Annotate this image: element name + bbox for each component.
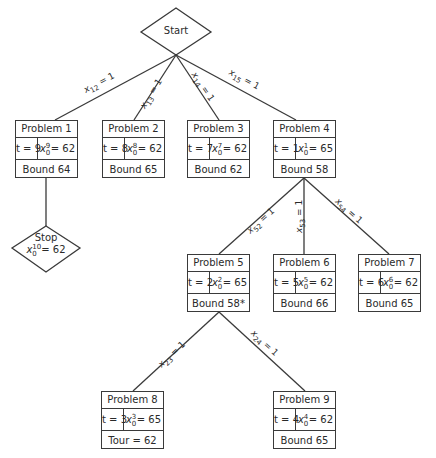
problem-9-node: Problem 9 t = 4x40= 62 Bound 65 xyxy=(273,391,336,449)
problem-t-value: t = 3 xyxy=(102,409,124,430)
problem-1-node: Problem 1 t = 9x90= 62 Bound 64 xyxy=(15,120,78,178)
problem-t-value: t = 7 xyxy=(188,138,210,159)
tree-edges xyxy=(0,0,436,458)
problem-bound: Bound 66 xyxy=(274,294,335,313)
start-label: Start xyxy=(146,25,206,36)
problem-title: Problem 4 xyxy=(274,121,335,138)
problem-3-node: Problem 3 t = 7x70= 62 Bound 62 xyxy=(187,120,250,178)
problem-bound: Bound 64 xyxy=(16,160,77,179)
problem-x-value: x30= 65 xyxy=(124,409,163,430)
problem-title: Problem 8 xyxy=(102,392,163,409)
problem-x-value: x50= 62 xyxy=(296,272,335,293)
problem-x-value: x10= 65 xyxy=(296,138,335,159)
problem-x-value: x60= 62 xyxy=(381,272,420,293)
problem-t-value: t = 8 xyxy=(103,138,125,159)
problem-title: Problem 7 xyxy=(359,255,420,272)
problem-2-node: Problem 2 t = 8x80= 62 Bound 65 xyxy=(102,120,165,178)
problem-t-value: t = 2 xyxy=(188,272,210,293)
problem-t-value: t = 5 xyxy=(274,272,296,293)
problem-bound: Bound 62 xyxy=(188,160,249,179)
problem-title: Problem 2 xyxy=(103,121,164,138)
problem-bound: Bound 58* xyxy=(188,294,249,313)
problem-x-value: x90= 62 xyxy=(38,138,77,159)
problem-x-value: x20= 65 xyxy=(210,272,249,293)
stop-title: Stop xyxy=(16,232,76,244)
problem-bound: Bound 65 xyxy=(274,431,335,450)
problem-x-value: x80= 62 xyxy=(125,138,164,159)
problem-6-node: Problem 6 t = 5x50= 62 Bound 66 xyxy=(273,254,336,312)
problem-tour: Tour = 62 xyxy=(102,431,163,450)
problem-bound: Bound 65 xyxy=(103,160,164,179)
edge-label-x53: x53 = 1 xyxy=(294,200,307,233)
problem-title: Problem 5 xyxy=(188,255,249,272)
problem-5-node: Problem 5 t = 2x20= 65 Bound 58* xyxy=(187,254,250,312)
problem-title: Problem 1 xyxy=(16,121,77,138)
problem-t-value: t = 6 xyxy=(359,272,381,293)
problem-4-node: Problem 4 t = 1x10= 65 Bound 58 xyxy=(273,120,336,178)
problem-title: Problem 3 xyxy=(188,121,249,138)
stop-value: x100= 62 xyxy=(16,244,76,256)
problem-title: Problem 6 xyxy=(274,255,335,272)
problem-t-value: t = 4 xyxy=(274,409,296,430)
problem-t-value: t = 9 xyxy=(16,138,38,159)
problem-x-value: x40= 62 xyxy=(296,409,335,430)
problem-bound: Bound 58 xyxy=(274,160,335,179)
problem-bound: Bound 65 xyxy=(359,294,420,313)
problem-8-node: Problem 8 t = 3x30= 65 Tour = 62 xyxy=(101,391,164,449)
problem-t-value: t = 1 xyxy=(274,138,296,159)
problem-7-node: Problem 7 t = 6x60= 62 Bound 65 xyxy=(358,254,421,312)
problem-x-value: x70= 62 xyxy=(210,138,249,159)
stop-label: Stop x100= 62 xyxy=(16,232,76,256)
problem-title: Problem 9 xyxy=(274,392,335,409)
